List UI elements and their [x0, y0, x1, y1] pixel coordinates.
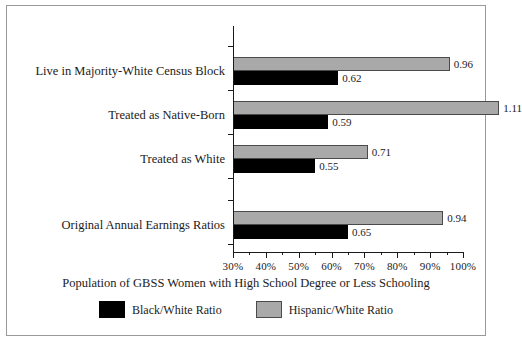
x-axis-tick	[233, 252, 234, 258]
x-axis-title: Population of GBSS Women with High Schoo…	[0, 276, 492, 291]
legend-swatch-hispanic-white-icon	[256, 301, 282, 318]
category-label: Original Annual Earnings Ratios	[61, 218, 225, 233]
x-axis-tick	[332, 252, 333, 258]
x-axis-tick-label: 90%	[420, 260, 441, 272]
bar-hispanic-white	[233, 101, 499, 115]
bar-hispanic-white	[233, 211, 443, 225]
legend-label-hispanic-white: Hispanic/White Ratio	[289, 304, 393, 316]
legend-entry-hispanic-white: Hispanic/White Ratio	[256, 301, 393, 318]
x-axis-tick	[364, 252, 365, 258]
x-axis-tick-label: 40%	[255, 260, 276, 272]
x-axis-minor-tick	[315, 252, 316, 255]
category-axis-tick	[228, 134, 233, 135]
category-axis-labels: Live in Majority-White Census BlockTreat…	[0, 26, 225, 253]
bar-hispanic-white	[233, 57, 450, 71]
x-axis-tick-label: 100%	[450, 260, 476, 272]
x-axis-tick	[463, 252, 464, 258]
x-axis-tick-label: 60%	[321, 260, 342, 272]
legend-label-black-white: Black/White Ratio	[132, 304, 222, 316]
value-axis-line: 30%40%50%60%70%80%90%100%	[233, 252, 464, 253]
bar-black-white	[233, 71, 338, 85]
category-label: Treated as Native-Born	[108, 108, 225, 123]
x-axis-tick	[266, 252, 267, 258]
bar-value-label-black-white: 0.65	[348, 226, 371, 238]
bar-value-label-black-white: 0.59	[328, 116, 351, 128]
bar-value-label-hispanic-white: 1.11	[499, 102, 522, 114]
bar-black-white	[233, 225, 348, 239]
x-axis-tick-label: 70%	[354, 260, 375, 272]
bar-black-white	[233, 115, 328, 129]
x-axis-minor-tick	[381, 252, 382, 255]
category-axis-tick	[228, 200, 233, 201]
figure-border-bottom	[6, 335, 486, 336]
bar-black-white	[233, 159, 315, 173]
category-axis-line	[233, 26, 234, 253]
bar-value-label-black-white: 0.62	[338, 72, 361, 84]
plot-area: 0.960.621.110.590.710.550.940.65	[233, 26, 463, 252]
x-axis-minor-tick	[414, 252, 415, 255]
category-axis-tick	[228, 244, 233, 245]
x-axis-tick	[430, 252, 431, 258]
bar-value-label-hispanic-white: 0.96	[450, 58, 473, 70]
x-axis-tick-label: 80%	[387, 260, 408, 272]
x-axis-minor-tick	[447, 252, 448, 255]
x-axis-minor-tick	[282, 252, 283, 255]
bar-value-label-hispanic-white: 0.94	[443, 212, 466, 224]
category-label: Treated as White	[140, 152, 225, 167]
legend-entry-black-white: Black/White Ratio	[99, 301, 222, 318]
category-label: Live in Majority-White Census Block	[35, 64, 225, 79]
category-axis-tick	[228, 178, 233, 179]
legend-swatch-black-white-icon	[99, 301, 125, 318]
x-axis-tick	[397, 252, 398, 258]
figure-border-top	[6, 5, 486, 6]
x-axis-tick-label: 30%	[223, 260, 244, 272]
bar-value-label-hispanic-white: 0.71	[368, 146, 391, 158]
bar-value-label-black-white: 0.55	[315, 160, 338, 172]
x-axis-tick	[299, 252, 300, 258]
bar-hispanic-white	[233, 145, 368, 159]
x-axis-tick-label: 50%	[288, 260, 309, 272]
x-axis-minor-tick	[348, 252, 349, 255]
category-axis-tick	[228, 90, 233, 91]
x-axis-minor-tick	[249, 252, 250, 255]
category-axis-tick	[228, 46, 233, 47]
chart-legend: Black/White Ratio Hispanic/White Ratio	[0, 301, 492, 318]
